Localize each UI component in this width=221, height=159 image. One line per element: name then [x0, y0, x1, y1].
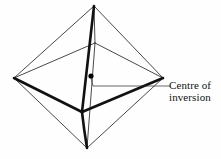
edge-bottom-front — [82, 112, 87, 148]
label-line-1: Centre of — [169, 80, 211, 92]
centre-of-inversion-dot — [88, 73, 93, 78]
edge-bottom-right — [87, 78, 163, 148]
edge-left-back — [14, 43, 95, 78]
label-line-2: inversion — [169, 92, 211, 104]
edge-right-front — [82, 78, 163, 112]
edge-top-right — [94, 6, 163, 78]
figure-canvas: Centre of inversion — [0, 0, 221, 159]
edge-top-front — [82, 6, 94, 112]
centre-of-inversion-label: Centre of inversion — [169, 80, 211, 103]
thin-edge-group — [14, 6, 163, 148]
edge-left-front — [14, 78, 82, 112]
edge-right-back — [95, 43, 163, 78]
edge-bottom-left — [14, 78, 87, 148]
edge-top-left — [14, 6, 94, 78]
